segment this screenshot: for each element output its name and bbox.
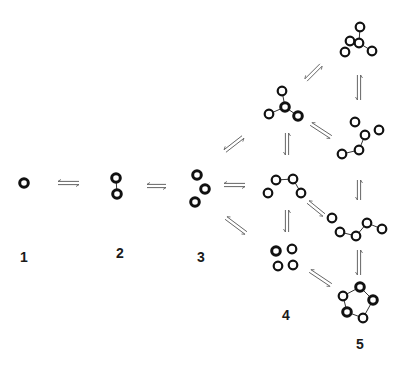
- equilibrium-arrow-icon: [283, 133, 290, 155]
- atom-icon: [272, 176, 281, 185]
- atom-icon: [193, 171, 202, 180]
- label-1: 1: [20, 249, 28, 265]
- atom-icon: [294, 112, 303, 121]
- atom-icon: [274, 262, 283, 271]
- atom-icon: [343, 308, 352, 317]
- equilibrium-arrow-icon: [58, 179, 79, 186]
- atom-icon: [375, 126, 384, 135]
- equilibrium-arrow-icon: [225, 217, 247, 235]
- atom-icon: [341, 48, 350, 57]
- atom-icon: [288, 245, 297, 254]
- atom-icon: [278, 87, 287, 96]
- label-3: 3: [197, 249, 205, 265]
- atom-icon: [351, 118, 360, 127]
- atom-icon: [363, 219, 372, 228]
- atom-icon: [356, 283, 365, 292]
- atom-icon: [272, 247, 281, 256]
- atom-icon: [336, 228, 345, 237]
- atom-icon: [352, 232, 361, 241]
- equilibrium-arrow-icon: [147, 182, 166, 189]
- label-2: 2: [116, 245, 124, 261]
- atom-icon: [113, 190, 122, 199]
- atom-icon: [112, 174, 121, 183]
- atom-icon: [361, 131, 370, 140]
- equilibrium-arrow-icon: [305, 64, 322, 81]
- equilibrium-arrow-icon: [224, 181, 245, 188]
- atom-icon: [264, 189, 273, 198]
- atom-icon: [338, 150, 347, 159]
- atom-icon: [339, 292, 348, 301]
- equilibrium-arrow-icon: [355, 75, 362, 100]
- atom-icon: [20, 179, 29, 188]
- equilibrium-arrow-icon: [355, 250, 362, 275]
- atom-icon: [356, 23, 365, 32]
- atom-icon: [369, 296, 378, 305]
- atom-icon: [201, 185, 210, 194]
- atom-icon: [297, 189, 306, 198]
- equilibrium-arrow-icon: [310, 123, 332, 139]
- atom-icon: [346, 37, 355, 46]
- atom-icon: [328, 214, 337, 223]
- bonds: [116, 27, 382, 318]
- equilibrium-arrow-icon: [355, 180, 362, 200]
- atom-icon: [191, 198, 200, 207]
- atom-icon: [378, 225, 387, 234]
- equilibrium-arrows: [58, 64, 363, 286]
- equilibrium-arrow-icon: [307, 201, 325, 216]
- atom-icon: [265, 110, 274, 119]
- atom-icon: [368, 47, 377, 56]
- atom-icon: [355, 39, 364, 48]
- reaction-diagram: [0, 0, 404, 367]
- equilibrium-arrow-icon: [224, 136, 244, 153]
- atom-icon: [281, 103, 290, 112]
- label-4: 4: [282, 307, 290, 323]
- atom-icon: [289, 175, 298, 184]
- equilibrium-arrow-icon: [283, 210, 290, 232]
- equilibrium-arrow-icon: [309, 270, 332, 287]
- atoms: [20, 23, 387, 323]
- atom-icon: [359, 314, 368, 323]
- atom-icon: [289, 261, 298, 270]
- label-5: 5: [356, 336, 364, 352]
- atom-icon: [355, 146, 364, 155]
